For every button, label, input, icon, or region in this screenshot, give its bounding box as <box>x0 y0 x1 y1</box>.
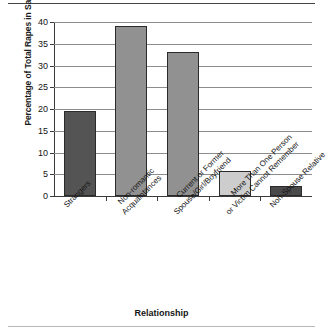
bar <box>270 186 302 196</box>
x-tick-mark <box>209 197 210 201</box>
y-tick-mark <box>50 87 54 88</box>
x-axis-line <box>54 196 312 197</box>
x-axis-title: Relationship <box>0 308 323 318</box>
y-tick-mark <box>50 22 54 23</box>
bar <box>219 171 251 196</box>
y-tick-label: 35 <box>28 39 48 49</box>
y-tick-mark <box>50 196 54 197</box>
y-tick-label: 20 <box>28 104 48 114</box>
y-tick-label: 0 <box>28 191 48 201</box>
y-tick-label: 25 <box>28 82 48 92</box>
bar <box>115 26 147 196</box>
x-tick-mark <box>157 197 158 201</box>
y-tick-label: 10 <box>28 148 48 158</box>
bottom-divider-rule <box>8 326 315 327</box>
y-tick-label: 40 <box>28 17 48 27</box>
y-tick-label: 15 <box>28 126 48 136</box>
plot-area: 0510152025303540 <box>54 22 312 197</box>
x-tick-mark <box>260 197 261 201</box>
bar <box>64 111 96 196</box>
y-tick-mark <box>50 131 54 132</box>
top-divider-rule <box>8 3 315 4</box>
y-tick-mark <box>50 153 54 154</box>
x-tick-mark <box>106 197 107 201</box>
gridline <box>54 22 312 23</box>
y-tick-mark <box>50 66 54 67</box>
y-tick-mark <box>50 44 54 45</box>
bar <box>167 52 199 196</box>
y-tick-label: 30 <box>28 61 48 71</box>
y-tick-mark <box>50 174 54 175</box>
gridline <box>54 44 312 45</box>
y-tick-label: 5 <box>28 169 48 179</box>
y-tick-mark <box>50 109 54 110</box>
